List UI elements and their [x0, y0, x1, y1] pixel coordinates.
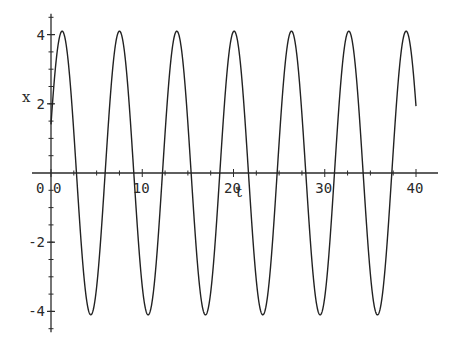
x-tick-label: 40: [407, 180, 424, 196]
x-tick-label: 30: [315, 180, 332, 196]
x-axis-label: t: [236, 183, 242, 201]
x-axis: 10203040: [32, 169, 438, 196]
y-tick-label: -4: [28, 303, 45, 319]
y-axis-label: x: [22, 88, 31, 106]
y-tick-label: -2: [28, 234, 45, 250]
origin-tick-label: 0: [36, 180, 44, 196]
sinusoid-plot: 10203040 -4-224 0 t x 0: [0, 0, 458, 344]
x-tick-label: 0: [53, 180, 61, 196]
y-tick-label: 2: [37, 96, 45, 112]
y-tick-label: 4: [37, 27, 45, 43]
